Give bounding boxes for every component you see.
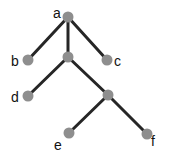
edge-m-n: [68, 57, 108, 95]
label-b: b: [11, 53, 19, 69]
label-e: e: [54, 137, 62, 153]
node-b: [23, 55, 34, 66]
label-f: f: [151, 133, 155, 149]
edge-m-d: [28, 57, 68, 96]
node-e: [64, 128, 75, 139]
node-c: [102, 55, 113, 66]
label-d: d: [11, 89, 19, 105]
label-a: a: [53, 5, 61, 21]
edge-a-c: [68, 17, 107, 60]
node-d: [23, 91, 34, 102]
node-m: [63, 52, 74, 63]
tree-diagram: a b c d e f: [0, 0, 171, 157]
edges: [28, 17, 147, 134]
edge-n-e: [69, 95, 108, 133]
labels: a b c d e f: [11, 5, 155, 153]
node-a: [63, 12, 74, 23]
edge-a-b: [28, 17, 68, 60]
node-n: [103, 90, 114, 101]
edge-n-f: [108, 95, 147, 134]
label-c: c: [114, 53, 121, 69]
